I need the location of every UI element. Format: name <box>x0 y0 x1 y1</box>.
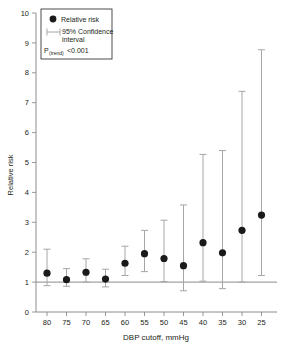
y-tick-label: 8 <box>25 68 29 77</box>
data-point <box>219 249 226 256</box>
y-axis-ticks: 012345678910 <box>21 9 36 317</box>
chart-figure: 012345678910 807570656055504540353025 Re… <box>0 0 286 346</box>
data-point <box>102 276 109 283</box>
x-tick-label: 25 <box>257 318 265 327</box>
legend-point-marker <box>50 16 57 23</box>
y-tick-label: 5 <box>25 158 29 167</box>
x-tick-label: 60 <box>121 318 129 327</box>
x-tick-label: 35 <box>218 318 226 327</box>
relative-risk-scatter-chart: 012345678910 807570656055504540353025 Re… <box>0 0 286 346</box>
x-tick-label: 65 <box>101 318 109 327</box>
x-tick-label: 40 <box>199 318 207 327</box>
data-point <box>258 212 265 219</box>
data-point <box>180 262 187 269</box>
legend-p-subscript: (trend) <box>49 50 64 56</box>
x-tick-label: 70 <box>82 318 90 327</box>
data-points-group <box>43 212 265 284</box>
data-point <box>82 269 89 276</box>
x-axis-title: DBP cutoff, mmHg <box>123 333 189 342</box>
legend-ci-label-line2: interval <box>62 36 85 43</box>
data-point <box>43 270 50 277</box>
y-axis-title: Relative risk <box>6 154 15 195</box>
y-tick-label: 3 <box>25 218 29 227</box>
error-bars-group <box>44 50 266 291</box>
x-tick-label: 80 <box>43 318 51 327</box>
data-point <box>121 260 128 267</box>
y-tick-label: 10 <box>21 9 29 18</box>
x-tick-label: 75 <box>62 318 70 327</box>
legend-p-value: <0.001 <box>67 47 89 54</box>
legend-ci-label-line1: 95% Confidence <box>62 28 113 35</box>
y-tick-label: 2 <box>25 248 29 257</box>
y-tick-label: 6 <box>25 128 29 137</box>
x-tick-label: 50 <box>160 318 168 327</box>
x-tick-label: 30 <box>238 318 246 327</box>
data-point <box>160 255 167 262</box>
data-point <box>238 227 245 234</box>
y-tick-label: 4 <box>25 188 29 197</box>
data-point <box>141 250 148 257</box>
chart-legend: Relative risk 95% Confidence interval P … <box>41 9 113 59</box>
y-tick-label: 9 <box>25 39 29 48</box>
data-point <box>199 239 206 246</box>
data-point <box>63 276 70 283</box>
y-tick-label: 0 <box>25 308 29 317</box>
x-axis-ticks: 807570656055504540353025 <box>43 312 266 327</box>
legend-point-label: Relative risk <box>61 16 100 23</box>
y-tick-label: 1 <box>25 278 29 287</box>
x-tick-label: 45 <box>179 318 187 327</box>
x-tick-label: 55 <box>140 318 148 327</box>
y-tick-label: 7 <box>25 98 29 107</box>
